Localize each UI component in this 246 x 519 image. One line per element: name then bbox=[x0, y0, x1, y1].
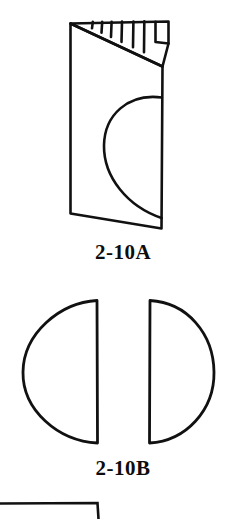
partial-rectangle-corner-icon bbox=[0, 488, 246, 519]
figure-plate: 2-10A 2-10B bbox=[0, 0, 246, 519]
left-semicircle bbox=[23, 301, 98, 444]
mirrored-semicircle-pair-icon bbox=[0, 286, 246, 452]
figure-2-10b bbox=[0, 286, 246, 452]
right-semicircle bbox=[150, 301, 215, 444]
figure-2-10a-caption: 2-10A bbox=[0, 242, 246, 263]
folded-card-with-half-round-cutout-icon bbox=[0, 0, 246, 236]
figure-2-10b-caption: 2-10B bbox=[0, 458, 246, 479]
figure-2-10a bbox=[0, 0, 246, 236]
figure-partial-cropped bbox=[0, 488, 246, 519]
